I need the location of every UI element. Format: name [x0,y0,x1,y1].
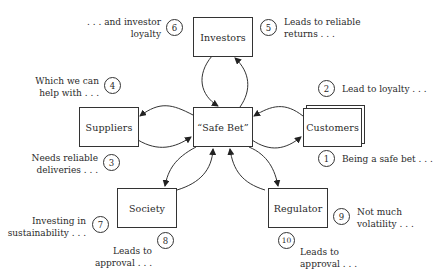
node-regulator: Regulator [268,188,328,228]
annotation-7: Investing in sustainability . . . [8,215,86,239]
arrow-regulator-to-safebet [230,149,265,190]
annotation-9: Not much volatility . . . [357,206,414,230]
node-label: Suppliers [86,122,133,133]
step-badge-10: 10 [278,232,295,249]
annotation-8: Leads to approval . . . [95,245,152,269]
node-society: Society [117,188,177,228]
annotation-1: Being a safe bet . . . [342,153,433,165]
node-label: Regulator [274,203,323,214]
step-badge-5: 5 [260,19,277,36]
node-suppliers: Suppliers [79,107,139,147]
arrow-customers-to-safebet [254,107,303,116]
stakeholder-diagram: Investors “Safe Bet” Suppliers Customers… [0,0,439,279]
step-badge-3: 3 [103,154,120,171]
arrow-safebet-to-customers [252,137,301,148]
arrow-investors-to-safebet [202,56,218,106]
step-badge-1: 1 [318,150,335,167]
step-badge-8: 8 [157,232,174,249]
node-label: Customers [306,122,359,133]
annotation-6: . . . and investor loyalty [87,16,161,40]
step-badge-2: 2 [318,80,335,97]
arrow-safebet-to-society [165,147,196,186]
node-label: Investors [200,32,246,43]
annotation-10: Leads to approval . . . [300,246,357,270]
node-label: Society [129,203,165,214]
arrow-suppliers-to-safebet [138,137,191,147]
node-customers: Customers [303,108,362,147]
step-badge-7: 7 [92,216,109,233]
arrow-safebet-to-suppliers [140,106,193,116]
annotation-2: Lead to loyalty . . . [342,83,427,95]
annotation-3: Needs reliable deliveries . . . [32,152,99,176]
node-label: “Safe Bet” [197,122,248,133]
step-badge-9: 9 [333,208,350,225]
node-safe-bet: “Safe Bet” [193,107,253,147]
step-badge-4: 4 [104,77,121,94]
annotation-4: Which we can help with . . . [35,75,99,99]
step-badge-6: 6 [166,19,183,36]
node-investors: Investors [193,17,253,57]
arrow-safebet-to-investors [235,58,248,107]
arrow-safebet-to-regulator [249,147,278,186]
annotation-5: Leads to reliable returns . . . [284,16,361,40]
